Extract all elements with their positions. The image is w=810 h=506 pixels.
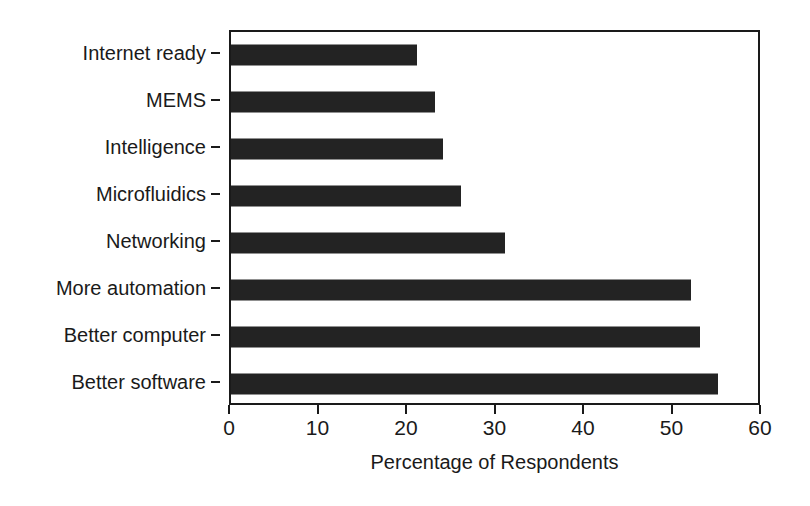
bar [231,45,417,66]
bar [231,92,435,113]
x-axis-tick [228,405,230,414]
bar [231,373,718,394]
bar-chart: Internet readyMEMSIntelligenceMicrofluid… [0,0,810,506]
bar [231,279,691,300]
y-axis-tick [211,381,220,383]
x-axis-tick-label: 0 [223,417,235,438]
y-axis-tick [211,240,220,242]
bar [231,232,505,253]
y-axis-tick [211,99,220,101]
y-axis-label: Better computer [64,325,206,345]
x-axis-tick [671,405,673,414]
y-axis-tick [211,287,220,289]
x-axis-tick-label: 30 [483,417,506,438]
bar [231,186,461,207]
plot-area [229,30,760,405]
x-axis-tick-label: 10 [306,417,329,438]
y-axis-tick [211,52,220,54]
y-axis-label: Intelligence [105,137,206,157]
y-axis-label: Better software [71,372,206,392]
y-axis-tick [211,334,220,336]
x-axis-tick [317,405,319,414]
y-axis-label: MEMS [146,90,206,110]
bar [231,326,700,347]
y-axis-category-labels: Internet readyMEMSIntelligenceMicrofluid… [0,30,220,405]
x-axis-title: Percentage of Respondents [229,452,760,472]
x-axis-tick [494,405,496,414]
x-axis-tick [405,405,407,414]
y-axis-tick [211,146,220,148]
x-axis-tick-label: 20 [394,417,417,438]
bar [231,139,443,160]
y-axis-label: Microfluidics [96,184,206,204]
y-axis-tick [211,193,220,195]
x-axis-tick [759,405,761,414]
x-axis-tick [582,405,584,414]
x-axis-tick-label: 60 [748,417,771,438]
y-axis-label: More automation [56,278,206,298]
x-axis-tick-label: 40 [571,417,594,438]
y-axis-label: Networking [106,231,206,251]
y-axis-label: Internet ready [83,43,206,63]
x-axis-tick-label: 50 [660,417,683,438]
